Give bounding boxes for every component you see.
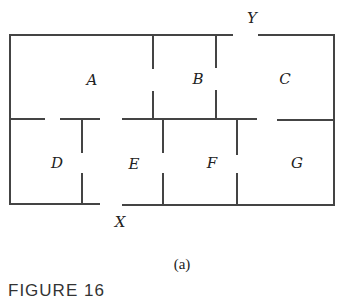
room-label-e: E xyxy=(129,157,140,172)
middle-walls xyxy=(10,119,334,120)
room-label-a: A xyxy=(87,73,98,88)
door-label-x: X xyxy=(115,215,126,230)
subcaption: (a) xyxy=(174,257,191,272)
room-label-g: G xyxy=(291,156,303,171)
room-label-b: B xyxy=(192,72,203,87)
figure-caption: FIGURE 16 xyxy=(8,282,105,299)
upper-partitions xyxy=(153,35,216,119)
room-label-d: D xyxy=(51,156,63,171)
room-label-c: C xyxy=(279,72,290,87)
door-label-y: Y xyxy=(247,11,257,26)
room-label-f: F xyxy=(207,156,217,171)
